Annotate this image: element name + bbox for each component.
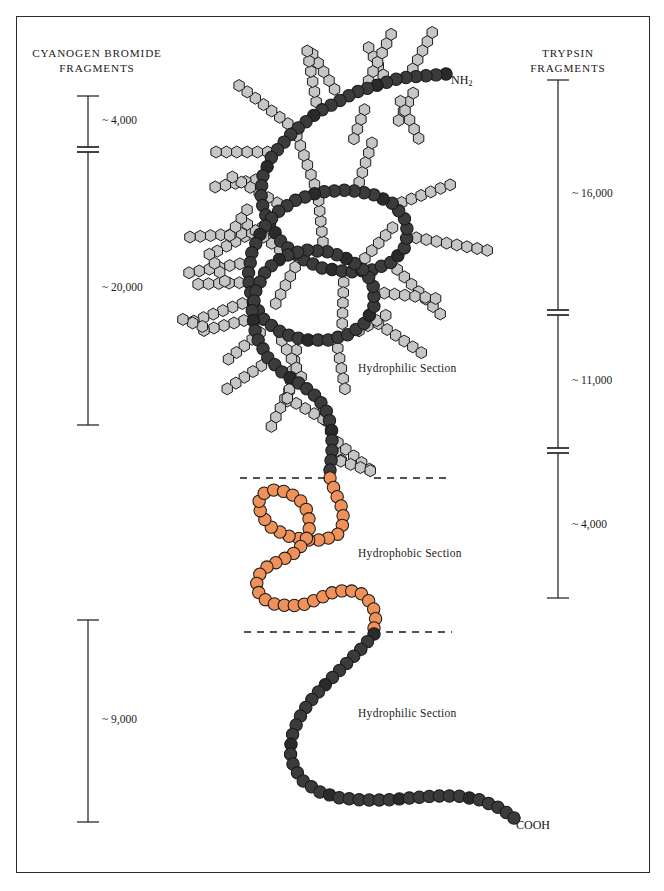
branch-hexagon bbox=[345, 458, 355, 470]
branch-hexagon bbox=[237, 298, 247, 310]
branch-hexagon bbox=[462, 241, 472, 253]
carbohydrate-branch-13 bbox=[337, 276, 349, 329]
branch-hexagon bbox=[266, 420, 276, 432]
branch-hexagon bbox=[309, 86, 319, 98]
branch-hexagon bbox=[204, 248, 214, 260]
branch-hexagon bbox=[223, 353, 233, 365]
branch-hexagon bbox=[302, 45, 312, 57]
branch-hexagon bbox=[185, 231, 195, 243]
branch-hexagon bbox=[232, 146, 242, 158]
carbohydrate-branch-34 bbox=[266, 383, 294, 432]
branch-hexagon bbox=[413, 132, 423, 144]
branch-hexagon bbox=[234, 80, 244, 92]
branch-hexagon bbox=[235, 258, 245, 270]
branch-hexagon bbox=[430, 292, 440, 304]
branch-hexagon bbox=[222, 383, 232, 395]
branch-hexagon bbox=[363, 42, 373, 54]
branch-hexagon bbox=[482, 244, 492, 256]
carbohydrate-branch-29 bbox=[313, 195, 328, 248]
branch-hexagon bbox=[252, 146, 262, 158]
branch-hexagon bbox=[426, 186, 436, 198]
branch-hexagon bbox=[224, 260, 234, 272]
branch-hexagon bbox=[337, 318, 347, 330]
branch-hexagon bbox=[386, 28, 396, 40]
branch-hexagon bbox=[221, 146, 231, 158]
branch-hexagon bbox=[316, 215, 326, 227]
branch-hexagon bbox=[400, 289, 410, 301]
branch-hexagon bbox=[184, 267, 194, 279]
branch-hexagon bbox=[435, 308, 445, 320]
branch-hexagon bbox=[304, 55, 314, 67]
carbohydrate-branch-17 bbox=[354, 137, 377, 188]
branch-hexagon bbox=[421, 234, 431, 246]
branch-hexagon bbox=[314, 205, 324, 217]
carbohydrate-branch-6 bbox=[349, 104, 370, 145]
polypeptide-chain-diagram bbox=[0, 0, 664, 891]
branch-hexagon bbox=[242, 146, 252, 158]
branch-hexagon bbox=[387, 222, 397, 234]
branch-hexagon bbox=[282, 392, 292, 404]
branch-hexagon bbox=[365, 465, 375, 477]
branch-hexagon bbox=[367, 137, 377, 149]
branch-hexagon bbox=[389, 288, 399, 300]
branch-hexagon bbox=[208, 308, 218, 320]
branch-hexagon bbox=[229, 317, 239, 329]
branch-hexagon bbox=[340, 383, 350, 395]
branch-hexagon bbox=[435, 182, 445, 194]
carbohydrate-branch-8 bbox=[234, 80, 293, 130]
backbone-hydrophilic-lower bbox=[284, 628, 520, 824]
branch-hexagon bbox=[334, 352, 344, 364]
branch-hexagon bbox=[306, 65, 316, 77]
carbohydrate-branch-0 bbox=[408, 26, 438, 74]
branch-hexagon bbox=[431, 235, 441, 247]
branch-hexagon bbox=[205, 230, 215, 242]
branch-hexagon bbox=[271, 298, 281, 310]
branch-hexagon bbox=[193, 278, 203, 290]
carbohydrate-branch-7 bbox=[302, 45, 321, 108]
branch-hexagon bbox=[218, 305, 228, 317]
branch-hexagon bbox=[420, 291, 430, 303]
branch-hexagon bbox=[416, 189, 426, 201]
branch-hexagon bbox=[210, 181, 220, 193]
branch-hexagon bbox=[427, 26, 437, 38]
branch-hexagon bbox=[452, 239, 462, 251]
branch-hexagon bbox=[242, 204, 252, 216]
carbohydrate-branch-9 bbox=[211, 146, 273, 158]
branch-hexagon bbox=[203, 278, 213, 290]
carbohydrate-branch-18 bbox=[292, 130, 320, 190]
branch-hexagon bbox=[349, 133, 359, 145]
branch-hexagon bbox=[393, 114, 403, 126]
branch-hexagon bbox=[416, 347, 426, 359]
branch-hexagon bbox=[381, 309, 391, 321]
branch-hexagon bbox=[317, 225, 327, 237]
branch-hexagon bbox=[338, 373, 348, 385]
branch-hexagon bbox=[472, 243, 482, 255]
branch-hexagon bbox=[227, 171, 237, 183]
branch-hexagon bbox=[445, 179, 455, 191]
branch-hexagon bbox=[406, 193, 416, 205]
branch-hexagon bbox=[219, 319, 229, 331]
carbohydrate-branch-25 bbox=[333, 342, 351, 395]
branch-hexagon bbox=[209, 322, 219, 334]
backbone-hydrophobic-middle bbox=[251, 472, 382, 634]
branch-hexagon bbox=[194, 265, 204, 277]
branch-hexagon bbox=[211, 146, 221, 158]
branch-hexagon bbox=[197, 320, 207, 332]
branch-hexagon bbox=[355, 462, 365, 474]
carbohydrate-branch-16 bbox=[397, 179, 456, 209]
branch-hexagon bbox=[307, 76, 317, 88]
branch-hexagon bbox=[187, 317, 197, 329]
branch-hexagon bbox=[227, 301, 237, 313]
branch-hexagon bbox=[195, 230, 205, 242]
branch-hexagon bbox=[410, 290, 420, 302]
chain-bead bbox=[508, 812, 520, 824]
branch-hexagon bbox=[178, 313, 188, 325]
branch-hexagon bbox=[441, 237, 451, 249]
branch-hexagon bbox=[336, 362, 346, 374]
carbohydrate-branch-15 bbox=[411, 232, 493, 257]
